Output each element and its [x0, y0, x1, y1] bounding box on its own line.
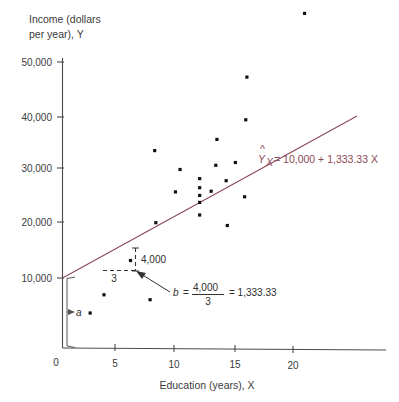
data-point [154, 221, 157, 224]
data-point [226, 224, 229, 227]
data-point [215, 138, 218, 141]
y-tick-label-30000: 30,000 [21, 163, 52, 174]
y-tick-label-40000: 40,000 [21, 112, 52, 123]
chart-canvas: 50,000 40,000 30,000 20,000 10,000 0 5 1… [0, 0, 399, 402]
data-point [89, 311, 92, 314]
x-tick-label-0: 0 [53, 357, 59, 368]
regression-equation: Y ^ X = 10,000 + 1,333.33 X [258, 143, 378, 168]
x-axis-title: Education (years), X [159, 379, 254, 391]
intercept-arrow-head [68, 309, 75, 315]
slope-formula-arrow-head [136, 271, 146, 279]
scatter-plot-figure: 50,000 40,000 30,000 20,000 10,000 0 5 1… [0, 0, 399, 402]
rise-label: 4,000 [141, 254, 166, 265]
slope-formula-equals: = [183, 287, 189, 298]
data-point [178, 168, 181, 171]
data-point [225, 179, 228, 182]
data-point [148, 298, 151, 301]
equation-body: = 10,000 + 1,333.33 X [274, 153, 378, 165]
intercept-label: a [76, 307, 82, 318]
regression-line [63, 116, 358, 278]
y-axis-title-line1: Income (dollars [29, 13, 101, 25]
data-point [198, 186, 201, 189]
slope-formula-arrow-line [141, 274, 170, 292]
data-point [198, 194, 201, 197]
data-point [153, 149, 156, 152]
y-axis-title-line2: per year), Y [29, 28, 84, 40]
data-point [234, 161, 237, 164]
data-point [129, 259, 132, 262]
data-point [198, 177, 201, 180]
slope-formula-result: = 1,333.33 [229, 287, 277, 298]
slope-formula-b: b [173, 287, 179, 298]
data-point [102, 293, 105, 296]
equation-x-subscript: X [265, 156, 274, 168]
data-point [198, 201, 201, 204]
data-point [303, 12, 306, 15]
y-tick-label-20000: 20,000 [21, 217, 52, 228]
x-tick-label-20: 20 [287, 360, 299, 371]
data-point [214, 164, 217, 167]
run-label: 3 [111, 273, 117, 284]
y-tick-label-50000: 50,000 [21, 57, 52, 68]
data-point [244, 118, 247, 121]
slope-formula-numerator: 4,000 [193, 282, 218, 293]
slope-formula-denominator: 3 [205, 296, 211, 307]
equation-hat-accent: ^ [260, 143, 265, 155]
data-point [174, 190, 177, 193]
x-tick-label-15: 15 [229, 359, 241, 370]
data-point [210, 190, 213, 193]
x-axis-line [63, 348, 387, 350]
x-tick-label-10: 10 [168, 359, 180, 370]
y-tick-label-10000: 10,000 [21, 273, 52, 284]
data-point [245, 76, 248, 79]
data-point [198, 213, 201, 216]
x-tick-label-5: 5 [112, 358, 118, 369]
data-point [243, 195, 246, 198]
